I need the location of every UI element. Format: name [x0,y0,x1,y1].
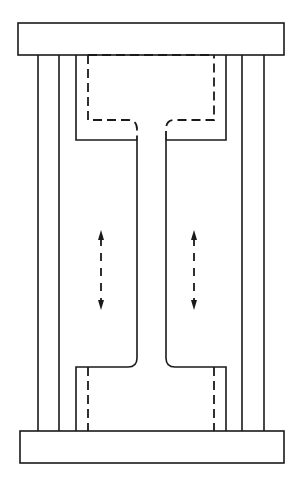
top-plate [18,23,284,55]
right-flow-arrow-icon [191,230,197,310]
left-flow-arrow-icon [98,230,104,310]
diagram-canvas [0,0,305,479]
lower-solid-frame [76,140,226,431]
upper-dashed-cavity [88,55,214,140]
bottom-plate [20,431,284,463]
upper-solid-frame [76,55,226,140]
